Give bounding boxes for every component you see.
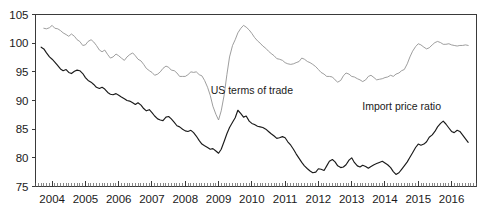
x-tick-label: 2006 [106,193,132,205]
chart-container: 7580859095100105 20042005200620072008200… [0,0,490,220]
y-tick-label: 75 [16,181,29,193]
annotation-us-terms-of-trade: US terms of trade [211,84,293,96]
x-tick-label: 2014 [372,193,398,205]
x-tick-label: 2007 [139,193,165,205]
y-tick-label: 90 [16,95,29,107]
x-tick-label: 2011 [273,193,298,205]
y-tick-label: 105 [9,9,28,21]
x-tick-label: 2009 [206,193,232,205]
y-tick-label: 100 [9,37,28,49]
y-tick-label: 85 [16,123,29,135]
terms-of-trade-line-chart: 7580859095100105 20042005200620072008200… [0,0,490,220]
x-tick-label: 2013 [339,193,365,205]
x-tick-label: 2004 [39,193,65,205]
annotation-import-price-ratio: Import price ratio [362,100,441,112]
x-tick-label: 2012 [306,193,332,205]
x-tick-label: 2016 [439,193,465,205]
x-tick-label: 2005 [73,193,99,205]
y-tick-label: 95 [16,66,29,78]
x-tick-label: 2015 [405,193,431,205]
x-tick-label: 2010 [239,193,265,205]
x-tick-label: 2008 [172,193,198,205]
y-tick-label: 80 [16,152,29,164]
